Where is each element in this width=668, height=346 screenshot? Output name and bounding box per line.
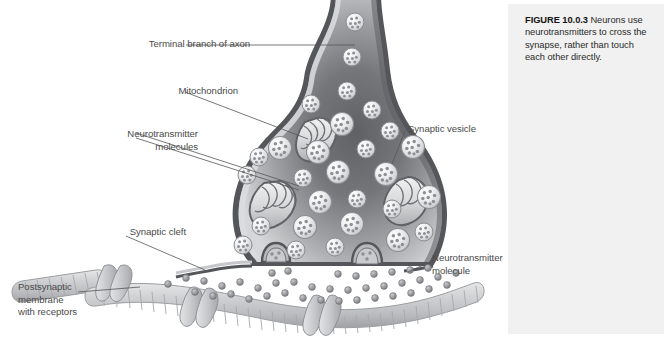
figure-number: FIGURE 10.0.3 xyxy=(525,15,588,25)
figure-page: Terminal branch of axon Mitochondrion Ne… xyxy=(0,0,668,346)
caption-panel: FIGURE 10.0.3 Neurons use neurotransmitt… xyxy=(508,4,664,334)
label-postsynaptic-membrane-with-receptors: Postsynaptic membrane with receptors xyxy=(18,281,168,319)
label-mitochondrion: Mitochondrion xyxy=(0,85,238,98)
label-neurotransmitter-molecules: Neurotransmitter molecules xyxy=(0,128,198,153)
label-terminal-branch-of-axon: Terminal branch of axon xyxy=(0,38,250,51)
figure-caption: FIGURE 10.0.3 Neurons use neurotransmitt… xyxy=(525,14,651,64)
label-synaptic-cleft: Synaptic cleft xyxy=(0,226,186,239)
